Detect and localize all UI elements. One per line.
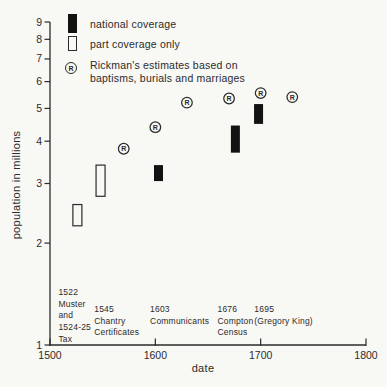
chart-canvas: 1234567891500160017001800RRRRRR (0, 0, 387, 387)
y-tick-label-2: 2 (36, 237, 42, 249)
r-marker-letter-1730: R (290, 94, 295, 101)
y-tick-label-4: 4 (36, 135, 42, 147)
x-axis-title: date (192, 362, 215, 374)
y-tick-label-9: 9 (36, 16, 42, 28)
r-marker-letter-1600: R (153, 124, 158, 131)
y-tick-label-7: 7 (36, 52, 42, 64)
r-marker-letter-1630: R (184, 99, 189, 106)
national-coverage-bar-1698 (254, 104, 263, 124)
r-marker-letter-1570: R (121, 145, 126, 152)
r-marker-letter-1670: R (227, 95, 232, 102)
x-tick-label-1800: 1800 (354, 349, 378, 361)
population-chart-figure: 1234567891500160017001800RRRRRR national… (0, 0, 387, 387)
r-marker-letter-1700: R (258, 90, 263, 97)
y-tick-label-8: 8 (36, 33, 42, 45)
y-axis-title: population in millions (10, 131, 22, 240)
x-tick-label-1700: 1700 (249, 349, 273, 361)
y-tick-label-5: 5 (36, 102, 42, 114)
x-tick-label-1500: 1500 (38, 349, 62, 361)
national-coverage-bar-1603 (154, 165, 163, 181)
y-tick-label-6: 6 (36, 75, 42, 87)
part-coverage-bar-1548 (96, 165, 105, 196)
y-tick-label-3: 3 (36, 177, 42, 189)
x-tick-label-1600: 1600 (144, 349, 168, 361)
part-coverage-bar-1526 (73, 205, 82, 226)
national-coverage-bar-1676 (231, 126, 240, 153)
